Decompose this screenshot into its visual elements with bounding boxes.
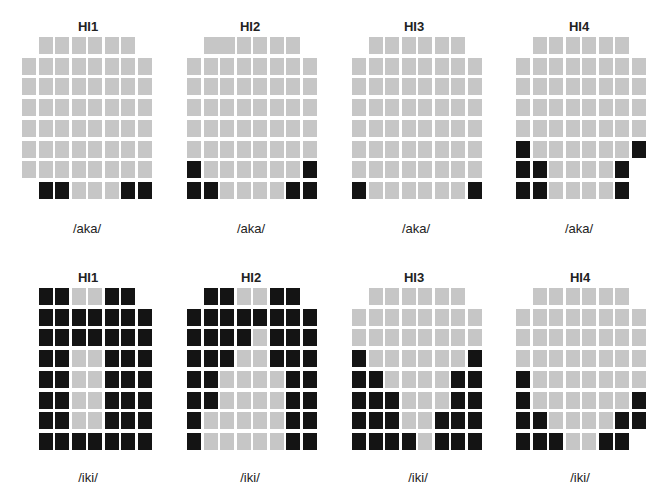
grid-cell-inactive [204, 141, 218, 158]
grid-cell-inactive [468, 309, 482, 326]
grid-cell-inactive [566, 412, 580, 429]
grid-cell-inactive [253, 37, 267, 54]
grid-cell-merged [204, 37, 235, 54]
grid-cell-inactive [237, 371, 251, 388]
grid-cell-inactive [435, 309, 449, 326]
grid-cell-inactive [286, 120, 300, 137]
panel-label: /iki/ [408, 470, 428, 485]
grid-cell-inactive [599, 37, 613, 54]
grid-cell-inactive [468, 161, 482, 178]
grid-cell-inactive [237, 58, 251, 75]
grid-cell-inactive [237, 161, 251, 178]
grid-cell-inactive [533, 371, 547, 388]
grid-cell-inactive [88, 58, 102, 75]
grid-cell-inactive [237, 182, 251, 199]
grid-cell-inactive [533, 37, 547, 54]
grid-cell-inactive [187, 58, 201, 75]
grid-cell-inactive [582, 161, 596, 178]
grid-cell-inactive [615, 58, 629, 75]
grid-cell-inactive [615, 99, 629, 116]
grid-cell-inactive [303, 141, 317, 158]
grid-cell-active [516, 161, 530, 178]
grid-cell-active [187, 350, 201, 367]
grid-cell-active [138, 350, 152, 367]
grid-cell-active [270, 329, 284, 346]
grid-cell-inactive [105, 58, 119, 75]
grid-cell-inactive [599, 392, 613, 409]
grid-cell-inactive [22, 78, 36, 95]
grid-cell-inactive [582, 350, 596, 367]
grid-cell-inactive [253, 161, 267, 178]
grid-cell-active [303, 433, 317, 450]
grid-cell-inactive [22, 99, 36, 116]
grid-cell-inactive [270, 392, 284, 409]
grid-cell-inactive [220, 141, 234, 158]
grid-cell-inactive [138, 99, 152, 116]
grid-cell-inactive [451, 120, 465, 137]
grid-cell-active [204, 182, 218, 199]
grid-cell-inactive [253, 350, 267, 367]
grid-cell-active [121, 392, 135, 409]
grid-cell-inactive [105, 37, 119, 54]
grid-cell-inactive [105, 182, 119, 199]
grid-cell-inactive [566, 288, 580, 305]
grid-cell-inactive [220, 433, 234, 450]
grid-cell-active [303, 161, 317, 178]
grid-cell-inactive [55, 78, 69, 95]
grid-cell-inactive [270, 182, 284, 199]
grid-cell-inactive [516, 350, 530, 367]
grid-cell-inactive [237, 392, 251, 409]
grid-cell-inactive [566, 371, 580, 388]
grid-cell-inactive [402, 329, 416, 346]
grid-cell-inactive [121, 99, 135, 116]
grid-cell-active [385, 412, 399, 429]
grid-cell-active [138, 329, 152, 346]
grid-cell-inactive [468, 99, 482, 116]
grid-cell-inactive [204, 58, 218, 75]
grid-cell-active [516, 371, 530, 388]
grid-cell-active [55, 350, 69, 367]
panel-label: /aka/ [237, 221, 265, 236]
grid-cell-inactive [402, 99, 416, 116]
grid-cell-inactive [88, 161, 102, 178]
grid-cell-inactive [369, 37, 383, 54]
grid-cell-inactive [402, 309, 416, 326]
grid-cell-active [632, 392, 646, 409]
grid-cell-inactive [352, 309, 366, 326]
grid-cell-inactive [55, 99, 69, 116]
grid-cell-inactive [303, 99, 317, 116]
grid-cell-active [204, 392, 218, 409]
grid-cell-active [187, 392, 201, 409]
grid-cell-active [88, 309, 102, 326]
grid-cell-inactive [402, 78, 416, 95]
grid-cell-active [121, 309, 135, 326]
grid-cell-active [204, 309, 218, 326]
grid-cell-inactive [303, 58, 317, 75]
grid-cell-active [451, 392, 465, 409]
grid-cell-active [303, 371, 317, 388]
grid-cell-active [533, 433, 547, 450]
grid-cell-active [435, 412, 449, 429]
grid-cell-active [187, 433, 201, 450]
grid-cell-inactive [451, 288, 465, 305]
grid-cell-inactive [369, 141, 383, 158]
grid-cell-inactive [418, 350, 432, 367]
grid-cell-inactive [566, 58, 580, 75]
grid-cell-inactive [39, 58, 53, 75]
grid-cell-active [39, 329, 53, 346]
grid-cell-inactive [270, 58, 284, 75]
grid-cell-inactive [549, 288, 563, 305]
grid-cell-inactive [468, 329, 482, 346]
grid-cell-inactive [582, 120, 596, 137]
grid-cell-inactive [270, 371, 284, 388]
grid-cell-inactive [599, 329, 613, 346]
grid-cell-inactive [105, 141, 119, 158]
grid-cell-inactive [533, 99, 547, 116]
grid-cell-active [55, 288, 69, 305]
grid-cell-inactive [582, 58, 596, 75]
grid-cell-inactive [582, 412, 596, 429]
panel-label: /aka/ [565, 221, 593, 236]
grid-cell-inactive [369, 58, 383, 75]
grid-cell-active [468, 182, 482, 199]
grid-cell-inactive [352, 161, 366, 178]
